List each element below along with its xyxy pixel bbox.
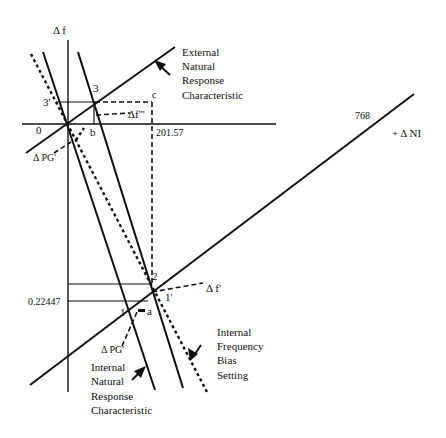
svg-text:Response: Response: [91, 390, 133, 402]
value-768-label: 768: [355, 110, 370, 121]
frequency-response-diagram: Δ f + Δ NI 0 3 3' b c 2 1 1' a 768 201.5…: [0, 0, 446, 438]
point-1-prime-label: 1': [165, 291, 173, 303]
delta-f-triple-prime-dash: [96, 113, 130, 115]
svg-text:External: External: [182, 46, 219, 58]
svg-text:Characteristic: Characteristic: [91, 404, 152, 416]
point-c-label: c: [152, 89, 157, 100]
svg-text:Natural: Natural: [91, 375, 124, 387]
origin-label: 0: [36, 124, 42, 136]
point-a-label: a: [147, 305, 152, 317]
external-response-arrow: [154, 60, 170, 75]
point-1-label: 1: [120, 306, 126, 318]
svg-text:Response: Response: [182, 74, 224, 86]
delta-pg-lower-label: Δ PG': [101, 344, 124, 355]
y-axis-label: Δ f: [53, 24, 66, 36]
svg-text:Bias: Bias: [217, 354, 237, 366]
point-3-prime-label: 3': [43, 96, 51, 108]
svg-text:Internal: Internal: [91, 361, 125, 373]
svg-text:Setting: Setting: [217, 369, 249, 381]
point-a-marker: [138, 309, 145, 312]
internal-natural-response-arrow: [132, 366, 146, 380]
svg-text:Frequency: Frequency: [217, 340, 264, 352]
external-natural-response-annotation: External Natural Response Characteristic: [182, 46, 243, 101]
delta-pg-upper-label: Δ PG': [33, 152, 56, 163]
internal-frequency-bias-annotation: Internal Frequency Bias Setting: [217, 326, 264, 381]
value-201-57-label: 201.57: [156, 127, 184, 138]
svg-text:Natural: Natural: [182, 60, 215, 72]
internal-frequency-bias-line: [31, 54, 208, 394]
delta-pg-upper-marks: [76, 128, 84, 140]
point-2-label: 2: [152, 270, 158, 282]
svg-text:Internal: Internal: [217, 326, 251, 338]
x-axis-label: + Δ NI: [392, 127, 422, 139]
svg-text:Characteristic: Characteristic: [182, 89, 243, 101]
point-3-label: 3: [93, 82, 99, 94]
delta-f-triple-prime-label: Δf''': [128, 108, 145, 120]
internal-frequency-bias-arrow: [188, 345, 201, 361]
delta-f-prime-label: Δ f': [206, 282, 221, 294]
value-0-22447-label: 0.22447: [28, 296, 61, 307]
point-b-label: b: [90, 126, 96, 138]
